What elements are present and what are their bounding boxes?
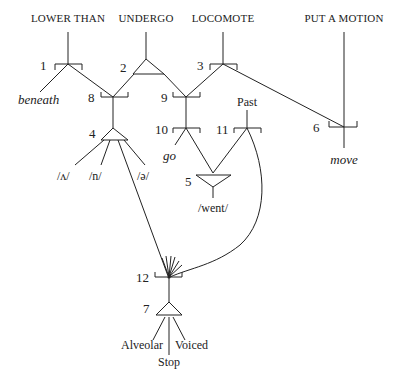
label-past: Past — [237, 95, 258, 109]
label-stop: Stop — [158, 355, 180, 369]
label-phoneme-n: /n/ — [89, 169, 102, 183]
node-4-number: 4 — [89, 126, 96, 141]
node-1-number: 1 — [40, 58, 47, 73]
node-11-number: 11 — [216, 122, 229, 137]
node-2-number: 2 — [120, 60, 127, 75]
stratificational-network-diagram: LOWER THAN UNDERGO LOCOMOTE PUT A MOTION… — [0, 0, 398, 385]
node-5-number: 5 — [185, 174, 192, 189]
node-1: 1 — [40, 32, 113, 97]
node-9-number: 9 — [161, 90, 168, 105]
label-go: go — [163, 148, 177, 163]
node-8: 8 — [88, 90, 128, 128]
node-8-number: 8 — [88, 90, 95, 105]
label-voiced: Voiced — [175, 338, 208, 352]
node-3: 3 — [186, 32, 344, 127]
label-lower-than: LOWER THAN — [31, 12, 105, 24]
label-put-a-motion: PUT A MOTION — [304, 12, 383, 24]
node-10-number: 10 — [155, 122, 168, 137]
label-undergo: UNDERGO — [118, 12, 173, 24]
label-move: move — [330, 152, 358, 167]
node-4: 4 — [75, 126, 168, 276]
node-6: 6 — [313, 32, 357, 148]
node-5: 5 — [185, 174, 231, 198]
node-12: 12 — [136, 256, 182, 302]
node-6-number: 6 — [313, 120, 320, 135]
label-went: /went/ — [198, 201, 229, 215]
label-locomote: LOCOMOTE — [192, 12, 255, 24]
label-phoneme-wedge: /ʌ/ — [57, 169, 70, 183]
label-beneath: beneath — [18, 92, 59, 107]
label-alveolar: Alveolar — [121, 338, 163, 352]
label-phoneme-schwa: /ə/ — [137, 169, 150, 183]
node-12-number: 12 — [136, 270, 149, 285]
node-11: 11 — [170, 110, 262, 277]
node-3-number: 3 — [197, 58, 204, 73]
node-2: 2 — [113, 32, 186, 97]
node-7-number: 7 — [143, 301, 150, 316]
